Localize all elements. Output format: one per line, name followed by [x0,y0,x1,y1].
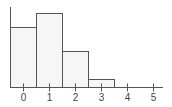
x-tick-label: 5 [151,92,157,103]
bar-0 [11,28,37,88]
bar-2 [63,52,89,88]
x-tick-label: 3 [99,92,105,103]
histogram-chart: 012345 [0,0,172,107]
bar-1 [37,14,63,88]
x-tick-label: 4 [125,92,131,103]
x-tick-label: 0 [21,92,27,103]
x-tick-label: 1 [47,92,53,103]
bars-group [11,14,115,88]
x-tick-label: 2 [73,92,79,103]
